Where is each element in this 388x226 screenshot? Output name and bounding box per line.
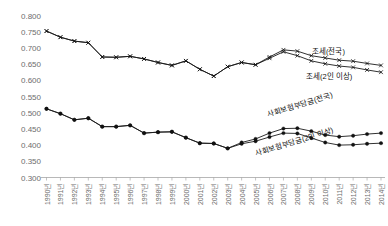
data-point-marker [170,130,173,133]
data-point-marker [156,130,159,133]
data-point-marker [45,29,49,33]
data-point-marker [337,135,340,138]
y-axis-tick-label: 0.600 [21,76,42,85]
x-axis-tick-label: 2001년 [196,184,204,206]
data-point-marker [184,136,187,139]
x-axis-tick-label: 2002년 [210,184,218,206]
data-point-marker [142,131,145,134]
data-point-marker [101,125,104,128]
data-point-marker [351,134,354,137]
x-axis-tick-label: 1996년 [126,184,134,206]
data-point-marker [198,67,202,71]
y-axis-tick-label: 0.700 [21,44,42,53]
y-axis-tick-label: 0.450 [21,125,42,134]
x-axis-tick-label: 1997년 [140,184,148,206]
data-point-marker [45,107,48,110]
x-axis-tick-label: 2007년 [279,184,287,206]
data-point-marker [198,141,201,144]
data-point-marker [379,131,382,134]
data-point-marker [365,142,368,145]
data-point-marker [114,125,117,128]
series-annotation-label: 사회보험부담금(전국) [266,89,334,119]
data-point-marker [351,143,354,146]
y-axis-tick-label: 0.650 [21,60,42,69]
x-axis-tick-label: 1993년 [84,184,92,206]
y-axis-tick-label: 0.300 [21,174,42,183]
data-point-marker [240,142,243,145]
data-point-marker [282,127,285,130]
series-annotation-label: 조세(2인 이상) [306,71,353,81]
data-point-marker [254,140,257,143]
series-annotation-label: 조세(전국) [312,46,345,56]
data-point-marker [73,118,76,121]
data-point-marker [296,132,299,135]
data-point-marker [282,131,285,134]
x-axis-tick-label: 2000년 [182,184,190,206]
x-axis-tick-label: 1990년 [43,184,51,206]
x-axis-tick-label: 2006년 [266,184,274,206]
x-axis-tick-label: 1992년 [70,184,78,206]
data-point-marker [268,135,271,138]
x-axis-tick-label: 2005년 [252,184,260,206]
x-axis-tick-label: 2003년 [224,184,232,206]
x-axis-tick-label: 2012년 [349,184,357,206]
data-point-marker [87,117,90,120]
line-chart: 0.3000.3500.4000.4500.5000.5500.6000.650… [0,0,388,226]
y-axis-tick-label: 0.750 [21,28,42,37]
x-axis-tick-label: 2014년 [377,184,385,206]
x-axis-tick-label: 1995년 [112,184,120,206]
data-point-marker [296,127,299,130]
data-point-marker [212,142,215,145]
y-axis-tick-label: 0.550 [21,93,42,102]
x-axis-tick-marks [47,178,382,181]
x-axis-tick-label: 2009년 [307,184,315,206]
data-point-marker [379,141,382,144]
data-point-marker [365,132,368,135]
x-axis-tick-label: 2011년 [335,184,343,205]
x-axis-tick-labels: 1990년1991년1992년1993년1994년1995년1996년1997년… [43,184,386,206]
series-annotation-labels: 조세(전국)조세(2인 이상)사회보험부담금(전국)사회보험부담금(2인 이상) [254,46,353,158]
data-point-marker [226,147,229,150]
x-axis-tick-label: 1999년 [168,184,176,206]
data-point-marker [59,112,62,115]
data-point-marker [212,74,216,78]
x-axis-tick-label: 2013년 [363,184,371,206]
x-axis-tick-label: 2008년 [293,184,301,206]
x-axis-tick-label: 1991년 [56,184,64,206]
chart-container: 0.3000.3500.4000.4500.5000.5500.6000.650… [0,0,388,226]
x-axis-tick-label: 1994년 [98,184,106,206]
y-axis-tick-label: 0.500 [21,109,42,118]
y-axis-tick-label: 0.400 [21,141,42,150]
x-axis-tick-label: 1998년 [154,184,162,206]
data-point-marker [128,124,131,127]
data-point-marker [337,143,340,146]
data-point-marker [324,141,327,144]
y-axis-tick-label: 0.350 [21,157,42,166]
y-axis-tick-label: 0.800 [21,12,42,21]
x-axis-tick-label: 2004년 [238,184,246,206]
x-axis-tick-label: 2010년 [321,184,329,206]
y-axis-tick-labels: 0.3000.3500.4000.4500.5000.5500.6000.650… [21,12,42,183]
data-point-marker [268,131,271,134]
